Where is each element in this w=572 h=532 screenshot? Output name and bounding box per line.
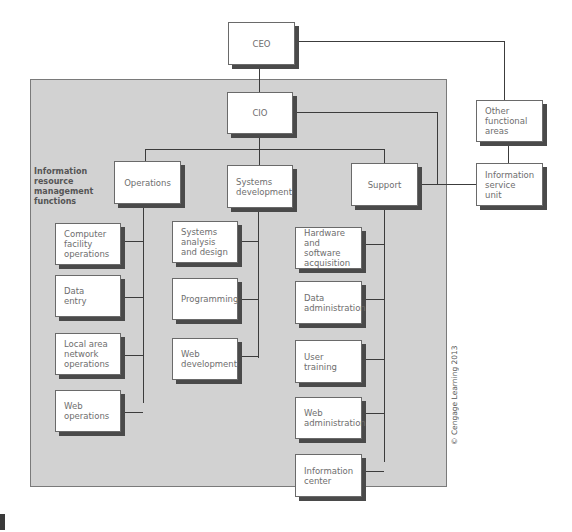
node-support: Support (351, 163, 418, 206)
node-computer-facility-operations: Computer facility operations (55, 223, 121, 265)
connector (508, 142, 509, 163)
node-ceo: CEO (228, 22, 295, 65)
node-label: Programming (181, 294, 238, 304)
node-other-functional-areas: Other functional areas (476, 100, 543, 142)
node-label: Systems analysis and design (181, 227, 228, 257)
node-label: Web development (181, 349, 237, 369)
node-label: Data administration (304, 293, 366, 313)
node-label: Local area network operations (64, 339, 109, 369)
connector (295, 41, 504, 42)
connector (238, 299, 258, 300)
connector (362, 359, 384, 360)
node-label: CEO (253, 39, 271, 49)
node-label: Support (368, 180, 402, 190)
connector (238, 356, 258, 357)
node-hardware-software-acquisition: Hardware and software acquisition (295, 227, 362, 269)
connector (121, 297, 143, 298)
node-information-center: Information center (295, 454, 362, 497)
node-web-development: Web development (172, 338, 238, 380)
connector (418, 184, 476, 185)
node-web-operations: Web operations (55, 390, 121, 432)
node-label: Data entry (64, 286, 86, 306)
connector (145, 149, 146, 161)
connector (504, 41, 505, 100)
node-label: Other functional areas (485, 106, 534, 136)
node-data-entry: Data entry (55, 275, 121, 317)
node-label: Operations (124, 178, 171, 188)
node-programming: Programming (172, 278, 238, 320)
node-cio: CIO (227, 92, 293, 134)
node-label: Web operations (64, 401, 109, 421)
panel-label: Information resource management function… (34, 167, 124, 207)
connector (293, 112, 437, 113)
copyright-notice: © Cengage Learning 2013 (450, 345, 459, 445)
page-edge-marker (0, 514, 5, 530)
node-operations: Operations (114, 161, 181, 204)
connector (145, 149, 384, 150)
connector (362, 244, 384, 245)
node-systems-development: Systems development (227, 165, 293, 208)
node-label: Information center (304, 466, 353, 486)
node-label: Web administration (304, 408, 366, 428)
connector (258, 208, 259, 358)
node-label: Systems development (236, 177, 292, 197)
node-information-service-unit: Information service unit (476, 163, 543, 206)
connector (437, 112, 438, 184)
connector (121, 241, 143, 242)
connector (362, 471, 384, 472)
node-label: Computer facility operations (64, 229, 109, 259)
node-web-administration: Web administration (295, 397, 362, 439)
node-data-administration: Data administration (295, 281, 362, 324)
connector (384, 206, 385, 462)
connector (143, 204, 144, 403)
node-label: User training (304, 352, 337, 372)
connector (384, 149, 385, 163)
node-lan-operations: Local area network operations (55, 333, 121, 375)
connector (238, 241, 258, 242)
node-label: Information service unit (485, 170, 534, 200)
node-systems-analysis-design: Systems analysis and design (172, 221, 238, 263)
connector (121, 355, 143, 356)
connector (121, 412, 143, 413)
connector (259, 65, 260, 92)
node-label: CIO (252, 108, 267, 118)
node-label: Hardware and software acquisition (304, 228, 353, 268)
node-user-training: User training (295, 340, 362, 383)
